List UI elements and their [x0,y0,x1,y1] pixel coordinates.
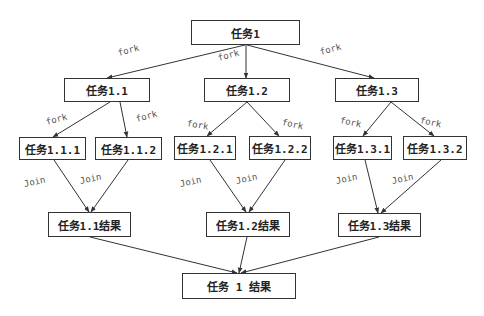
task-node-r1_2: 任务1.2结果 [206,212,290,237]
task-node-t1_1_2: 任务1.1.2 [95,137,162,160]
task-node-r1_1: 任务1.1结果 [48,212,131,237]
task-node-t1_2: 任务1.2 [204,78,290,102]
edge-t1-to-t1_3 [247,45,374,78]
task-node-t1: 任务1 [191,20,300,45]
task-node-label: 任务1.2结果 [216,217,280,233]
task-node-label: 任务1.2.1 [177,140,232,156]
fork-join-diagram: 任务1任务1.1任务1.2任务1.3任务1.1.1任务1.1.2任务1.2.1任… [0,0,484,316]
task-node-label: 任务1.1.1 [25,141,80,157]
edge-t1_2_2-to-r1_2 [249,160,285,212]
task-node-t1_3: 任务1.3 [335,78,419,102]
task-node-label: 任务1.1 [86,82,128,98]
task-node-t1_3_2: 任务1.3.2 [403,136,467,160]
edge-t1_1-to-t1_1_2 [120,102,127,137]
task-node-label: 任务1.1结果 [58,217,122,233]
task-node-r1_3: 任务1.3结果 [338,213,421,237]
edge-t1_1_1-to-r1_1 [54,160,89,212]
task-node-t1_1_1: 任务1.1.1 [19,137,86,160]
task-node-label: 任务1.3.1 [335,140,390,156]
task-node-label: 任务1.2.2 [252,140,307,156]
task-node-t1_3_1: 任务1.3.1 [333,136,392,160]
task-node-label: 任务1.2 [226,82,268,98]
task-node-t1_2_1: 任务1.2.1 [174,136,236,160]
task-node-label: 任务1.3结果 [348,217,412,233]
edge-t1_1_2-to-r1_1 [91,160,128,212]
edge-t1_3_2-to-r1_3 [381,160,441,213]
task-node-label: 任务1 [231,25,260,41]
task-node-t1_1: 任务1.1 [64,78,150,102]
edge-r1_1-to-r1 [90,237,237,273]
edge-t1_2-to-t1_2_2 [247,102,279,136]
task-node-label: 任务1.3.2 [407,140,462,156]
task-node-label: 任务1.3 [356,82,398,98]
edge-t1_3-to-t1_3_1 [363,102,391,136]
task-node-r1: 任务 1 结果 [182,273,296,299]
edge-t1_3_1-to-r1_3 [365,160,378,213]
edge-t1_2-to-t1_2_1 [207,102,247,136]
edge-t1_2_1-to-r1_2 [210,160,246,212]
edge-r1_2-to-r1 [239,237,247,273]
edge-r1_3-to-r1 [241,237,379,273]
task-node-t1_2_2: 任务1.2.2 [249,136,311,160]
task-node-label: 任务1.1.2 [101,141,156,157]
task-node-label: 任务 1 结果 [207,278,271,294]
